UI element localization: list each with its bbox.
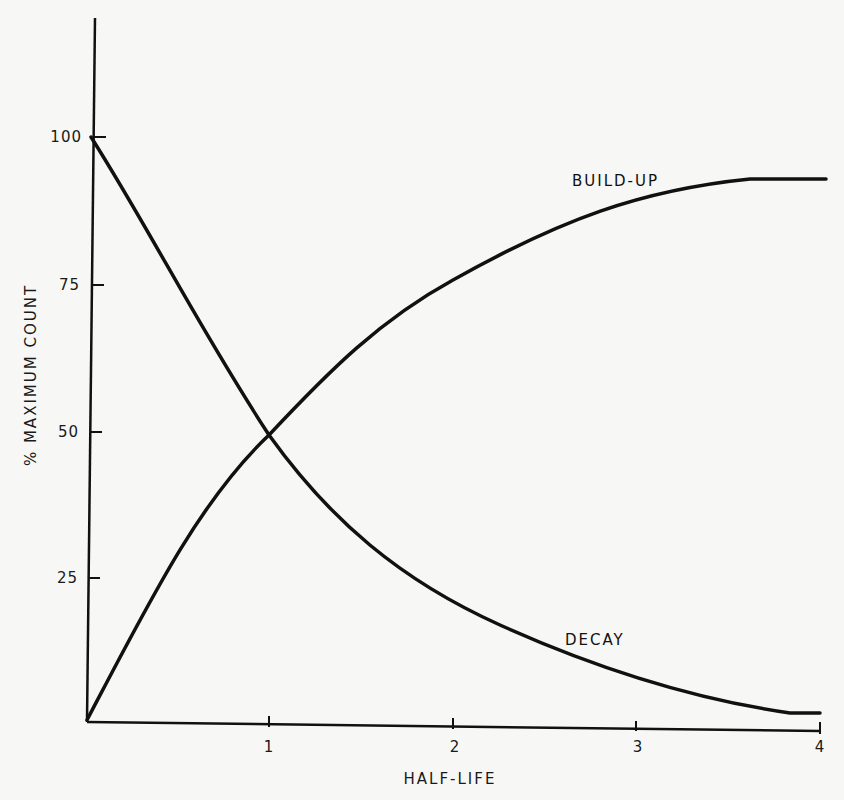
x-axis-title: HALF-LIFE bbox=[404, 770, 497, 788]
y-axis-title: % MAXIMUM COUNT bbox=[22, 284, 40, 466]
y-tick-label-100: 100 bbox=[50, 128, 82, 146]
decay-curve bbox=[91, 137, 820, 713]
buildup-curve bbox=[87, 179, 826, 720]
y-tick-label-75: 75 bbox=[59, 276, 80, 294]
x-tick-label-1: 1 bbox=[264, 738, 275, 756]
y-tick-label-50: 50 bbox=[58, 423, 79, 441]
y-axis bbox=[87, 18, 95, 722]
x-tick-label-4: 4 bbox=[815, 738, 826, 756]
buildup-label: BUILD-UP bbox=[572, 172, 659, 190]
chart-canvas: 100 75 50 25 1 2 3 4 HALF-LIFE % MAXIMUM… bbox=[0, 0, 844, 800]
decay-label: DECAY bbox=[565, 631, 625, 649]
x-tick-label-3: 3 bbox=[633, 738, 644, 756]
y-tick-label-25: 25 bbox=[57, 569, 78, 587]
x-tick-label-2: 2 bbox=[450, 738, 461, 756]
